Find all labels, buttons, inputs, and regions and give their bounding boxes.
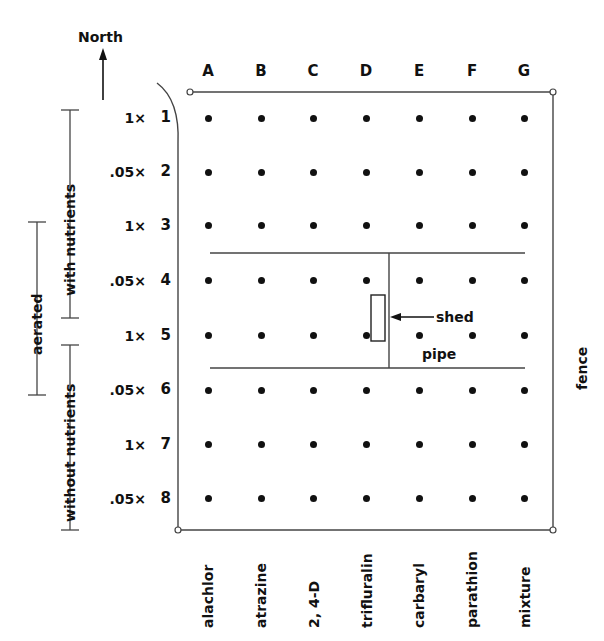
- plot-dot: [416, 495, 423, 502]
- plot-dot: [310, 115, 317, 122]
- plot-dot: [469, 495, 476, 502]
- with-nutrients-label: with nutrients: [63, 184, 77, 296]
- plot-dot: [205, 441, 212, 448]
- plot-dot: [205, 169, 212, 176]
- plot-dot: [258, 222, 265, 229]
- plot-dot: [416, 387, 423, 394]
- fence-boundary: [157, 83, 556, 533]
- plot-dot: [521, 441, 528, 448]
- north-label: North: [78, 30, 123, 44]
- plot-dot: [521, 115, 528, 122]
- plot-dot: [205, 332, 212, 339]
- row-dose-3: 1×: [100, 219, 146, 233]
- plot-dot: [363, 332, 370, 339]
- column-header-g: G: [510, 64, 538, 79]
- row-dose-4: .05×: [100, 274, 146, 288]
- plot-dot: [258, 441, 265, 448]
- column-header-e: E: [405, 64, 433, 79]
- plot-dot: [310, 277, 317, 284]
- plot-dot: [416, 169, 423, 176]
- plot-dot: [205, 277, 212, 284]
- treatment-label-carbaryl: carbaryl: [412, 563, 426, 628]
- column-header-a: A: [194, 64, 222, 79]
- plot-dot: [416, 115, 423, 122]
- plot-dot: [363, 115, 370, 122]
- pipe-lines: [210, 253, 525, 368]
- plot-dot: [205, 115, 212, 122]
- plot-dot: [521, 387, 528, 394]
- plot-dot: [521, 277, 528, 284]
- column-header-b: B: [247, 64, 275, 79]
- plot-dot: [310, 495, 317, 502]
- plot-dot: [310, 222, 317, 229]
- treatment-label-atrazine: atrazine: [254, 563, 268, 628]
- north-arrow-icon: [99, 48, 107, 100]
- pipe-label: pipe: [422, 347, 456, 361]
- plot-dot: [416, 277, 423, 284]
- plot-dot: [310, 169, 317, 176]
- row-number-6: 6: [153, 382, 171, 397]
- row-number-5: 5: [153, 328, 171, 343]
- row-dose-1: 1×: [100, 111, 146, 125]
- plot-dot: [363, 495, 370, 502]
- plot-dot: [258, 495, 265, 502]
- row-number-4: 4: [153, 273, 171, 288]
- row-number-1: 1: [153, 110, 171, 125]
- figure-line-art: [0, 0, 604, 641]
- plot-dot: [258, 277, 265, 284]
- plot-dot: [416, 222, 423, 229]
- plot-dot: [205, 222, 212, 229]
- plot-dot: [205, 495, 212, 502]
- plot-dot: [258, 115, 265, 122]
- plot-dot: [469, 441, 476, 448]
- plot-dot: [363, 387, 370, 394]
- plot-dot: [521, 495, 528, 502]
- plot-dot: [363, 277, 370, 284]
- treatment-label-mixture: mixture: [518, 567, 532, 628]
- plot-dot: [469, 169, 476, 176]
- shed-rect: [371, 295, 385, 341]
- fence-label: fence: [575, 347, 589, 390]
- plot-dot: [258, 332, 265, 339]
- plot-dot: [310, 332, 317, 339]
- plot-dot: [469, 387, 476, 394]
- plot-dot: [521, 222, 528, 229]
- column-header-d: D: [352, 64, 380, 79]
- row-dose-8: .05×: [100, 492, 146, 506]
- plot-dot: [310, 441, 317, 448]
- column-header-c: C: [299, 64, 327, 79]
- plot-dot: [469, 222, 476, 229]
- row-number-3: 3: [153, 218, 171, 233]
- row-dose-5: 1×: [100, 329, 146, 343]
- shed-leader-arrow-icon: [390, 313, 434, 321]
- column-header-f: F: [458, 64, 486, 79]
- plot-dot: [416, 332, 423, 339]
- row-number-7: 7: [153, 437, 171, 452]
- row-dose-6: .05×: [100, 383, 146, 397]
- plot-dot: [469, 277, 476, 284]
- row-number-8: 8: [153, 491, 171, 506]
- treatment-label-trifluralin: trifluralin: [360, 553, 374, 628]
- plot-dot: [469, 115, 476, 122]
- aerated-label: aerated: [30, 293, 44, 355]
- treatment-label-parathion: parathion: [465, 551, 479, 628]
- plot-dot: [416, 441, 423, 448]
- treatment-label-2-4-d: 2, 4-D: [307, 581, 321, 628]
- plot-dot: [363, 222, 370, 229]
- treatment-label-alachlor: alachlor: [201, 565, 215, 628]
- plot-dot: [363, 441, 370, 448]
- row-dose-2: .05×: [100, 165, 146, 179]
- row-number-2: 2: [153, 164, 171, 179]
- plot-dot: [469, 332, 476, 339]
- plot-dot: [521, 169, 528, 176]
- plot-dot: [521, 332, 528, 339]
- plot-dot: [258, 387, 265, 394]
- without-nutrients-label: without nutrients: [63, 384, 77, 522]
- plot-dot: [310, 387, 317, 394]
- plot-dot: [258, 169, 265, 176]
- plot-dot: [363, 169, 370, 176]
- row-dose-7: 1×: [100, 438, 146, 452]
- figure-canvas: North A B C D E F G 1 2 3 4 5 6 7 8 1× .…: [0, 0, 604, 641]
- shed-label: shed: [436, 310, 474, 324]
- plot-dot: [205, 387, 212, 394]
